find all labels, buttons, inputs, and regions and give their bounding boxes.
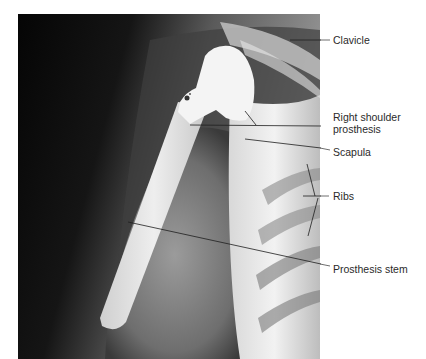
xray-image xyxy=(0,0,426,359)
leader-extensions xyxy=(320,40,330,266)
label-scapula: Scapula xyxy=(333,146,371,158)
label-right-shoulder-prosthesis-line1: Right shoulder xyxy=(333,111,401,123)
label-right-shoulder-prosthesis-line2: prosthesis xyxy=(333,123,381,135)
xray-figure: Clavicle Right shoulder prosthesis Scapu… xyxy=(0,0,426,359)
label-clavicle: Clavicle xyxy=(333,34,370,46)
label-prosthesis-stem: Prosthesis stem xyxy=(333,263,408,275)
label-ribs: Ribs xyxy=(333,190,354,202)
